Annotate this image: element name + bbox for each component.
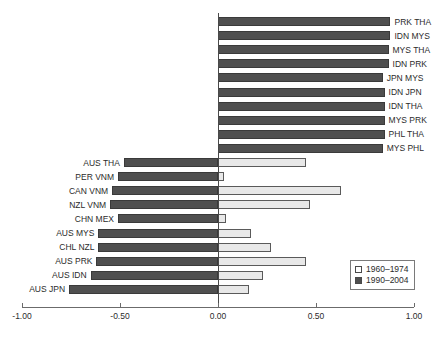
x-axis-tick-label: -1.00: [12, 311, 31, 321]
category-label: CHL NZL: [0, 243, 94, 252]
bar-segment-late: [218, 31, 390, 40]
x-axis-tick: [414, 303, 415, 307]
category-label: PHL THA: [389, 130, 424, 139]
category-label: IDN MYS: [394, 32, 429, 41]
category-label: CAN VNM: [0, 187, 108, 196]
category-label: PER VNM: [0, 173, 114, 182]
bar-segment-late: [110, 200, 218, 209]
category-label: IDN PRK: [393, 60, 427, 69]
legend-label-late: 1990–2004: [366, 275, 409, 286]
category-label: PRK THA: [394, 18, 431, 27]
bar-segment-late: [112, 186, 218, 195]
category-label: MYS PHL: [387, 144, 424, 153]
plot-area: PRK THAIDN MYSMYS THAIDN PRKJPN MYSIDN J…: [0, 0, 436, 352]
bar-segment-late: [98, 229, 218, 238]
legend-swatch-late-icon: [355, 277, 362, 284]
legend: 1960–1974 1990–2004: [350, 260, 415, 290]
zero-axis-line: [218, 13, 219, 307]
category-label: NZL VNM: [0, 201, 106, 210]
bar-segment-late: [218, 116, 385, 125]
legend-label-early: 1960–1974: [366, 264, 409, 275]
category-label: AUS MYS: [0, 229, 94, 238]
bar-segment-early: [218, 271, 263, 280]
bar-segment-early: [218, 214, 226, 223]
bar-segment-early: [218, 200, 310, 209]
category-label: MYS THA: [393, 46, 431, 55]
bar-segment-late: [218, 102, 385, 111]
bar-segment-late: [218, 17, 390, 26]
bar-segment-late: [218, 73, 383, 82]
x-axis-tick-label: -0.50: [110, 311, 129, 321]
category-label: AUS PRK: [0, 257, 92, 266]
x-axis-tick: [120, 303, 121, 307]
bar-segment-late: [118, 214, 218, 223]
bar-segment-early: [218, 243, 271, 252]
bar-segment-late: [96, 257, 218, 266]
bar-segment-early: [218, 158, 306, 167]
bar-segment-late: [98, 243, 218, 252]
bar-segment-early: [218, 285, 249, 294]
category-label: AUS IDN: [0, 271, 87, 280]
category-label: AUS THA: [0, 159, 120, 168]
x-axis-tick: [22, 303, 23, 307]
bar-segment-late: [118, 172, 218, 181]
bar-segment-late: [69, 285, 218, 294]
x-axis-tick-label: 1.00: [406, 311, 423, 321]
category-label: IDN JPN: [389, 88, 422, 97]
category-label: JPN MYS: [387, 74, 424, 83]
bar-chart: PRK THAIDN MYSMYS THAIDN PRKJPN MYSIDN J…: [0, 0, 436, 352]
x-axis-tick-label: 0.00: [210, 311, 227, 321]
category-label: MYS PRK: [389, 116, 427, 125]
bar-segment-late: [218, 130, 385, 139]
category-label: CHN MEX: [0, 215, 114, 224]
bar-segment-late: [91, 271, 218, 280]
bar-segment-early: [218, 186, 341, 195]
legend-entry-late: 1990–2004: [355, 275, 409, 286]
x-axis-tick: [218, 303, 219, 307]
x-axis-tick-label: 0.50: [308, 311, 325, 321]
x-axis-line: [22, 307, 414, 308]
bar-segment-late: [218, 88, 385, 97]
bar-segment-early: [218, 229, 251, 238]
bar-segment-late: [218, 144, 383, 153]
x-axis-tick: [316, 303, 317, 307]
category-label: AUS JPN: [0, 285, 65, 294]
legend-entry-early: 1960–1974: [355, 264, 409, 275]
bar-segment-late: [218, 45, 389, 54]
bar-segment-early: [218, 257, 306, 266]
legend-swatch-early-icon: [355, 266, 362, 273]
bar-segment-late: [124, 158, 218, 167]
category-label: IDN THA: [389, 102, 423, 111]
bar-segment-late: [218, 59, 389, 68]
